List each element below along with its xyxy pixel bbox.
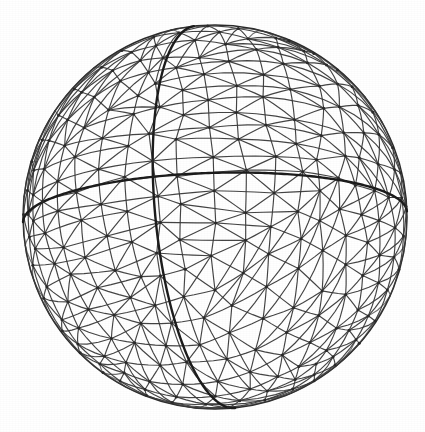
mesh-node <box>56 209 59 212</box>
mesh-edge <box>256 47 278 49</box>
mesh-edge <box>200 318 204 345</box>
mesh-node <box>170 322 173 325</box>
mesh-edge <box>209 128 238 140</box>
mesh-edge <box>290 89 323 108</box>
mesh-edge <box>183 384 206 404</box>
mesh-edge <box>246 157 275 170</box>
mesh-node <box>204 403 207 406</box>
mesh-edge <box>218 372 250 381</box>
mesh-node <box>155 252 158 255</box>
mesh-node <box>308 341 311 344</box>
mesh-node <box>63 144 66 147</box>
mesh-node <box>148 380 151 383</box>
mesh-edge <box>321 133 343 136</box>
mesh-edge <box>248 37 276 38</box>
mesh-edge <box>150 382 183 385</box>
mesh-node <box>159 221 162 224</box>
mesh-edge <box>321 136 345 156</box>
mesh-edge <box>62 328 78 331</box>
mesh-edge <box>42 201 45 233</box>
mesh-node <box>80 91 83 94</box>
mesh-node <box>296 210 299 213</box>
mesh-node <box>235 111 238 114</box>
mesh-node <box>107 109 110 112</box>
mesh-node <box>93 96 96 99</box>
mesh-node <box>325 349 328 352</box>
mesh-node <box>337 177 340 180</box>
mesh-edge <box>237 75 264 86</box>
mesh-edge <box>176 139 177 176</box>
mesh-node <box>198 343 201 346</box>
mesh-edge <box>296 136 321 144</box>
mesh-node <box>119 79 122 82</box>
mesh-edge <box>238 139 275 156</box>
mesh-node <box>123 175 126 178</box>
mesh-node <box>27 213 30 216</box>
mesh-node <box>301 170 304 173</box>
mesh-edge <box>132 242 141 277</box>
mesh-edge <box>98 270 116 287</box>
mesh-node <box>176 175 179 178</box>
mesh-node <box>102 371 105 374</box>
mesh-edge <box>274 191 320 193</box>
mesh-node <box>357 104 360 107</box>
mesh-node <box>302 50 305 53</box>
mesh-node <box>318 219 321 222</box>
mesh-edge <box>208 100 209 127</box>
mesh-node <box>148 132 151 135</box>
mesh-node <box>293 118 296 121</box>
mesh-node <box>276 375 279 378</box>
mesh-edge <box>58 211 64 248</box>
mesh-edge <box>183 115 209 127</box>
mesh-node <box>43 167 46 170</box>
mesh-node <box>30 160 33 163</box>
mesh-node <box>322 107 325 110</box>
mesh-edge <box>266 268 298 286</box>
mesh-node <box>378 254 381 257</box>
mesh-edge <box>33 221 35 249</box>
mesh-edge <box>227 359 250 389</box>
mesh-edge <box>340 209 362 214</box>
mesh-edge <box>176 58 199 68</box>
mesh-node <box>374 320 377 323</box>
mesh-edge <box>346 221 379 236</box>
mesh-edge <box>243 240 245 273</box>
mesh-node <box>126 210 129 213</box>
mesh-node <box>237 138 240 141</box>
mesh-node <box>294 378 297 381</box>
mesh-edge <box>176 138 238 139</box>
mesh-edge <box>321 108 323 135</box>
mesh-node <box>317 314 320 317</box>
mesh-node <box>338 105 341 108</box>
mesh-edge <box>44 287 47 298</box>
mesh-edge <box>368 242 380 255</box>
mesh-node <box>244 211 247 214</box>
mesh-node <box>101 137 104 140</box>
mesh-node <box>111 69 114 72</box>
mesh-node <box>28 235 31 238</box>
mesh-node <box>332 355 335 358</box>
mesh-edge <box>229 61 283 64</box>
mesh-edge <box>378 255 379 283</box>
mesh-edge <box>71 270 116 274</box>
mesh-node <box>212 156 215 159</box>
mesh-edge <box>263 89 290 97</box>
mesh-node <box>265 285 268 288</box>
mesh-node <box>22 213 25 216</box>
mesh-node <box>159 364 162 367</box>
mesh-edge <box>298 268 322 290</box>
mesh-edge <box>99 169 125 177</box>
mesh-edge <box>227 333 230 359</box>
mesh-node <box>344 234 347 237</box>
mesh-node <box>242 272 245 275</box>
mesh-node <box>348 329 351 332</box>
mesh-node <box>132 113 135 116</box>
mesh-edge <box>271 193 274 227</box>
mesh-node <box>358 156 361 159</box>
mesh-node <box>83 126 86 129</box>
mesh-edge <box>47 274 71 287</box>
mesh-edge <box>335 340 356 365</box>
mesh-edge <box>218 359 227 381</box>
mesh-edge <box>114 315 141 323</box>
mesh-node <box>313 379 316 382</box>
